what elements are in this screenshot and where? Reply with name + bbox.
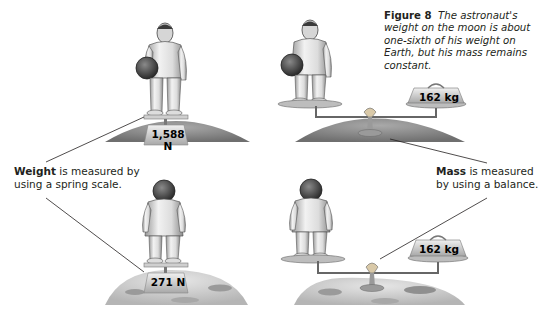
mass-label-term: Mass xyxy=(436,165,466,177)
moon-weight-readout: 271 N xyxy=(146,276,190,288)
balance-dial xyxy=(364,108,376,117)
helmet-held xyxy=(281,54,303,76)
scale-platform xyxy=(144,263,188,267)
mass-callout-line-top xyxy=(390,139,487,163)
figure-label: Figure 8 xyxy=(384,10,432,21)
astronaut-helmeted xyxy=(290,179,333,259)
mass-label: Mass is measured by using a balance. xyxy=(436,165,540,191)
helmet-held xyxy=(136,57,158,79)
weight-callout-line-bottom xyxy=(46,198,144,272)
moon-mass-readout: 162 kg xyxy=(414,243,464,255)
scale-platform xyxy=(144,115,188,119)
balance-left-pan xyxy=(281,255,345,263)
earth-mass-readout: 162 kg xyxy=(414,91,464,103)
earth-ground xyxy=(295,119,465,143)
astronaut-unhelmeted xyxy=(136,23,186,116)
moon-balance-scene xyxy=(281,179,468,305)
astronaut-unhelmeted xyxy=(281,20,331,104)
weight-label: Weight is measured by using a spring sca… xyxy=(14,165,154,191)
balance-left-pan xyxy=(278,100,342,108)
earth-weight-readout: 1,588 N xyxy=(146,128,190,152)
figure-caption: Figure 8 The astronaut's weight on the m… xyxy=(384,10,540,72)
balance-beam xyxy=(316,106,436,117)
earth-spring-scale-scene xyxy=(105,23,250,145)
weight-label-term: Weight xyxy=(14,165,56,177)
balance-dial xyxy=(366,263,378,273)
astronaut-helmeted xyxy=(143,180,186,264)
